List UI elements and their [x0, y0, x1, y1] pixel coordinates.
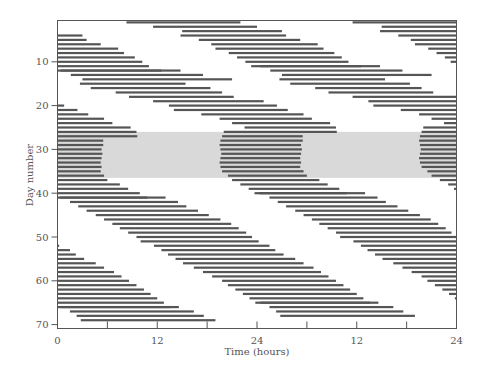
- activity-bar: [58, 126, 131, 128]
- activity-bar: [141, 240, 259, 242]
- activity-bar: [228, 284, 344, 286]
- activity-bar: [169, 105, 277, 107]
- activity-bar: [419, 157, 456, 159]
- activity-bar: [176, 258, 296, 260]
- y-tick-label: 30: [36, 144, 49, 155]
- activity-bar: [315, 87, 421, 89]
- activity-bar: [368, 100, 456, 102]
- activity-bar: [328, 227, 446, 229]
- activity-bar: [375, 253, 456, 255]
- activity-bar: [259, 192, 365, 194]
- activity-bar: [58, 131, 137, 133]
- activity-bar: [451, 61, 457, 63]
- activity-bar: [260, 302, 378, 304]
- activity-bar: [58, 109, 78, 111]
- activity-bar: [340, 236, 456, 238]
- activity-bar: [270, 69, 402, 71]
- activity-bar: [153, 100, 264, 102]
- activity-bar: [401, 109, 457, 111]
- activity-bar: [58, 148, 102, 150]
- activity-bar: [328, 91, 433, 93]
- activity-bar: [58, 249, 70, 251]
- activity-bar: [250, 297, 364, 299]
- x-tick-label: 12: [350, 335, 363, 346]
- activity-bar: [58, 166, 102, 168]
- activity-bar: [249, 188, 340, 190]
- activity-bar: [154, 245, 270, 247]
- activity-bar: [80, 83, 186, 85]
- activity-bar: [220, 118, 312, 120]
- activity-bar: [435, 284, 457, 286]
- activity-bar: [70, 201, 178, 203]
- activity-bar: [58, 56, 135, 58]
- activity-bar: [420, 161, 457, 163]
- activity-bar: [58, 48, 119, 50]
- activity-bar: [445, 56, 457, 58]
- activity-bar: [58, 144, 104, 146]
- y-tick-label: 40: [36, 188, 49, 199]
- activity-bar: [58, 122, 113, 124]
- activity-bar: [220, 144, 301, 146]
- activity-bar: [58, 258, 85, 260]
- activity-bar: [361, 245, 457, 247]
- x-axis-title: Time (hours): [224, 346, 289, 357]
- activity-bar: [412, 271, 457, 273]
- activity-bar: [58, 161, 101, 163]
- activity-bar: [276, 310, 403, 312]
- activity-bar: [411, 39, 457, 41]
- activity-bar: [232, 179, 319, 181]
- activity-bar: [70, 310, 194, 312]
- x-tick-label: 24: [450, 335, 463, 346]
- activity-bar: [422, 166, 457, 168]
- activity-bar: [427, 170, 456, 172]
- activity-bar: [220, 157, 300, 159]
- activity-bar: [112, 223, 231, 225]
- x-tick-label: 0: [54, 335, 60, 346]
- activity-bar: [182, 30, 282, 32]
- activity-bar: [222, 280, 336, 282]
- activity-bar: [58, 297, 158, 299]
- activity-bar: [58, 267, 105, 269]
- activity-bar: [432, 118, 457, 120]
- activity-bar: [58, 153, 103, 155]
- activity-bar: [421, 148, 457, 150]
- activity-bar: [353, 21, 457, 23]
- activity-bar: [280, 315, 415, 317]
- activity-bar: [278, 201, 386, 203]
- activity-bar: [420, 153, 457, 155]
- activity-bar: [58, 188, 129, 190]
- activity-bar: [279, 78, 385, 80]
- activity-bar: [419, 140, 456, 142]
- activity-bar: [336, 232, 452, 234]
- activity-bar: [427, 280, 456, 282]
- activity-bar: [58, 34, 83, 36]
- activity-bar: [212, 275, 328, 277]
- activity-bar: [58, 302, 164, 304]
- activity-bar: [432, 175, 457, 177]
- activity-bar: [126, 21, 240, 23]
- activity-bar: [440, 179, 457, 181]
- activity-bar: [181, 34, 287, 36]
- activity-bar: [91, 87, 211, 89]
- activity-bar: [422, 275, 457, 277]
- y-tick-label: 60: [36, 275, 49, 286]
- activity-bar: [224, 131, 337, 133]
- activity-bar: [58, 135, 138, 137]
- activity-bar: [260, 65, 380, 67]
- activity-bar: [61, 306, 179, 308]
- activity-bar: [420, 135, 457, 137]
- activity-bar: [286, 205, 397, 207]
- activity-bar: [437, 52, 457, 54]
- activity-bar: [220, 161, 301, 163]
- activity-bar: [368, 249, 457, 251]
- actogram-chart: 01224122410203040506070 Time (hours) Day…: [0, 0, 480, 376]
- activity-bar: [269, 196, 377, 198]
- activity-bar: [161, 249, 275, 251]
- activity-bar: [422, 131, 457, 133]
- y-tick-label: 20: [36, 100, 49, 111]
- activity-bar: [448, 183, 456, 185]
- activity-bar: [120, 227, 239, 229]
- activity-bar: [211, 43, 317, 45]
- activity-bar: [232, 122, 330, 124]
- activity-bar: [58, 140, 104, 142]
